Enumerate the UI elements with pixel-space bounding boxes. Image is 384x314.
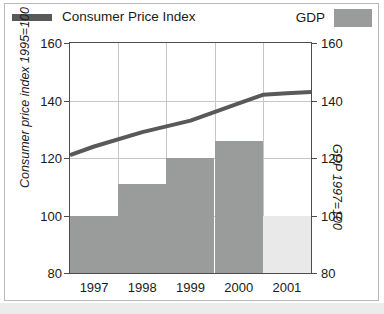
bar-1999 <box>166 158 214 273</box>
y-tick-mark-left-100 <box>64 216 69 217</box>
y-tick-label-left-160: 160 <box>32 37 62 50</box>
gridline-horizontal <box>70 101 311 102</box>
chart-legend: Consumer Price Index GDP <box>12 9 372 31</box>
legend-label-cpi: Consumer Price Index <box>62 9 196 25</box>
y-tick-mark-left-140 <box>64 101 69 102</box>
bar-2001 <box>263 216 311 274</box>
plot-area <box>69 42 312 274</box>
x-tick-label-1999: 1999 <box>166 281 214 294</box>
y-tick-label-right-140: 140 <box>321 95 351 108</box>
y-tick-mark-left-120 <box>64 158 69 159</box>
x-tick-label-2001: 2001 <box>263 281 311 294</box>
x-tick-label-1997: 1997 <box>70 281 118 294</box>
y-tick-label-left-120: 120 <box>32 152 62 165</box>
y-tick-label-left-80: 80 <box>32 267 62 280</box>
bar-2000 <box>215 141 263 273</box>
left-axis-title: Consumer price index 1995=100 <box>18 18 32 188</box>
bar-swatch-icon <box>334 9 372 27</box>
y-tick-mark-right-80 <box>312 273 317 274</box>
bar-1998 <box>118 184 166 273</box>
y-tick-label-left-140: 140 <box>32 95 62 108</box>
plot-inner <box>70 43 311 273</box>
x-tick-label-2000: 2000 <box>215 281 263 294</box>
y-tick-mark-right-160 <box>312 43 317 44</box>
y-tick-mark-right-100 <box>312 216 317 217</box>
y-tick-mark-right-120 <box>312 158 317 159</box>
y-tick-label-right-80: 80 <box>321 267 351 280</box>
x-tick-label-1998: 1998 <box>118 281 166 294</box>
chart-figure: Consumer Price Index GDP 808010010012012… <box>0 0 384 314</box>
y-tick-mark-left-160 <box>64 43 69 44</box>
legend-label-gdp: GDP <box>296 10 325 26</box>
legend-item-cpi: Consumer Price Index <box>12 9 196 25</box>
y-tick-mark-left-80 <box>64 273 69 274</box>
y-tick-mark-right-140 <box>312 101 317 102</box>
y-tick-label-left-100: 100 <box>32 210 62 223</box>
legend-item-gdp: GDP <box>296 9 372 27</box>
y-tick-label-right-160: 160 <box>321 37 351 50</box>
right-axis-title: GDP 1997=100 <box>330 132 344 242</box>
page-bottom-band <box>0 303 384 314</box>
bar-1997 <box>70 216 118 274</box>
